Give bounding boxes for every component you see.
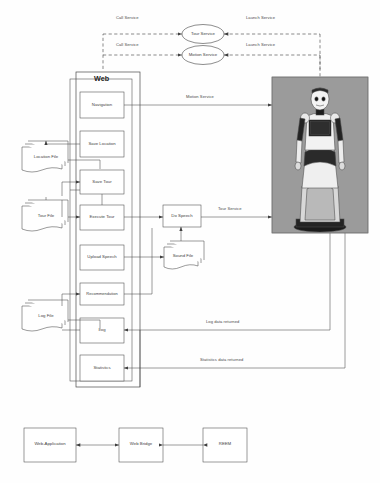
web-bridge-label: Web Bridge bbox=[119, 442, 163, 446]
reem-label: REEM bbox=[203, 442, 247, 446]
do-speech-label: Do Speech bbox=[163, 214, 201, 218]
web-container-label: Web bbox=[94, 74, 109, 83]
save-tour-label: Save Tour bbox=[80, 180, 124, 184]
location-file-label: Location File bbox=[24, 155, 68, 159]
statistics-data-returned-label: Statistics data returned bbox=[200, 358, 243, 362]
motion-service-label: Motion Service bbox=[182, 53, 224, 57]
log-data-returned-label: Log data returned bbox=[206, 320, 239, 324]
tour-service-label: Tour Service bbox=[182, 32, 224, 36]
launch-service-top-label: Launch Service bbox=[246, 16, 275, 20]
diagram-svg bbox=[0, 0, 380, 483]
web-application-label: Web-Application bbox=[24, 442, 76, 446]
statistics-label: Statistics bbox=[80, 366, 124, 370]
sound-file-label: Sound File bbox=[164, 254, 202, 258]
execute-tour-label: Execute Tour bbox=[80, 215, 124, 219]
log-file-label: Log File bbox=[24, 314, 68, 318]
recommendation-label: Recommendation bbox=[78, 292, 126, 296]
reem-robot-photo bbox=[272, 77, 368, 233]
tour-file-label: Tour File bbox=[24, 214, 68, 218]
launch-service-bottom-label: Launch Service bbox=[246, 43, 275, 47]
navigation-label: Navigation bbox=[80, 103, 124, 107]
call-service-bottom-label: Call Service bbox=[116, 43, 139, 47]
call-service-top-label: Call Service bbox=[116, 16, 139, 20]
motion-service-flow-label: Motion Service bbox=[186, 95, 214, 99]
diagram-canvas: Call Service Launch Service Call Service… bbox=[0, 0, 380, 483]
tour-service-flow-label: Tour Service bbox=[218, 207, 241, 211]
save-location-label: Save Location bbox=[80, 142, 124, 146]
log-label: Log bbox=[80, 328, 124, 332]
upload-speech-label: Upload Speech bbox=[80, 255, 124, 259]
